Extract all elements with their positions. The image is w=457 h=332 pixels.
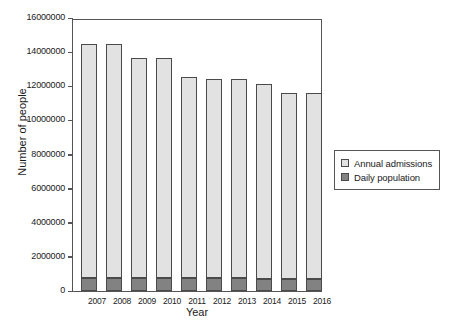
bar-segment-daily-population[interactable] [281, 279, 297, 291]
bar-segment-daily-population[interactable] [81, 278, 97, 291]
bar-segment-daily-population[interactable] [131, 278, 147, 291]
bar-segment-daily-population[interactable] [106, 278, 122, 291]
plot-area: 1600000014000000120000001000000080000006… [72, 19, 322, 292]
y-tick-mark [68, 256, 73, 258]
bar-segment-daily-population[interactable] [156, 278, 172, 291]
y-tick-mark [68, 188, 73, 190]
bar-segment-daily-population[interactable] [206, 278, 222, 291]
y-tick-mark [68, 52, 73, 54]
chart-container: Number of people 16000000140000001200000… [0, 0, 457, 332]
legend-label-daily-population: Daily population [354, 172, 420, 183]
legend-swatch-annual-admissions [341, 159, 349, 167]
y-tick-label: 4000000 [31, 217, 65, 227]
y-tick-label: 8000000 [31, 149, 65, 159]
y-tick-label: 10000000 [27, 114, 65, 124]
y-axis-title: Number of people [16, 72, 28, 192]
y-tick-label: 14000000 [27, 46, 65, 56]
legend-item-annual-admissions: Annual admissions [341, 156, 432, 170]
bar-segment-annual-admissions[interactable] [131, 58, 147, 278]
y-tick-label: 12000000 [27, 80, 65, 90]
y-tick-label: 6000000 [31, 183, 65, 193]
y-tick-mark [68, 120, 73, 122]
y-tick-mark [68, 222, 73, 224]
plot-inner: 1600000014000000120000001000000080000006… [73, 20, 321, 291]
legend-item-daily-population: Daily population [341, 170, 432, 184]
bar-segment-annual-admissions[interactable] [81, 44, 97, 278]
bar-segment-daily-population[interactable] [181, 278, 197, 291]
bar-segment-annual-admissions[interactable] [156, 58, 172, 278]
bar-segment-annual-admissions[interactable] [106, 44, 122, 278]
y-tick-label: 16000000 [27, 12, 65, 22]
x-axis-title: Year [72, 306, 322, 318]
bar-segment-daily-population[interactable] [256, 279, 272, 291]
y-tick-label: 0 [60, 285, 65, 295]
legend-label-annual-admissions: Annual admissions [354, 158, 432, 169]
y-tick-mark [68, 18, 73, 20]
bar-segment-annual-admissions[interactable] [306, 93, 322, 279]
bar-segment-annual-admissions[interactable] [206, 79, 222, 278]
bar-segment-annual-admissions[interactable] [231, 79, 247, 278]
y-tick-label: 2000000 [31, 251, 65, 261]
bar-segment-daily-population[interactable] [231, 278, 247, 291]
y-tick-mark [68, 154, 73, 156]
y-tick-mark [68, 291, 73, 293]
bar-segment-annual-admissions[interactable] [256, 84, 272, 279]
y-tick-mark [68, 86, 73, 88]
bar-segment-annual-admissions[interactable] [281, 93, 297, 279]
bar-segment-daily-population[interactable] [306, 279, 322, 291]
legend-swatch-daily-population [341, 173, 349, 181]
bar-segment-annual-admissions[interactable] [181, 77, 197, 279]
chart-legend: Annual admissions Daily population [334, 150, 440, 190]
x-axis-tick-label: 2016 [302, 296, 342, 306]
